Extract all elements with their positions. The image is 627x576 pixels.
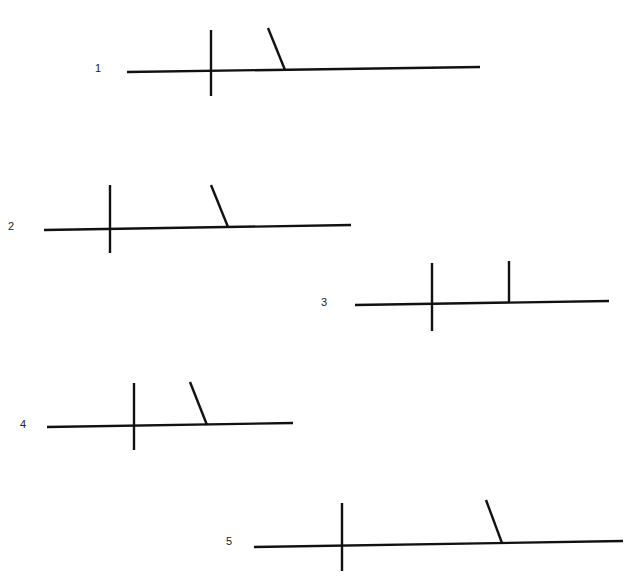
diagram-lines: [0, 0, 627, 576]
slant-line-5: [486, 500, 502, 543]
slant-line-4: [190, 382, 207, 425]
baseline-4: [47, 423, 293, 427]
slant-line-1: [268, 28, 285, 70]
slant-line-2: [211, 185, 228, 227]
sentence-diagram-worksheet: 1 2 3 4 5: [0, 0, 627, 576]
baseline-2: [44, 225, 351, 230]
baseline-5: [254, 541, 623, 547]
baseline-1: [127, 67, 480, 72]
baseline-3: [355, 301, 609, 305]
